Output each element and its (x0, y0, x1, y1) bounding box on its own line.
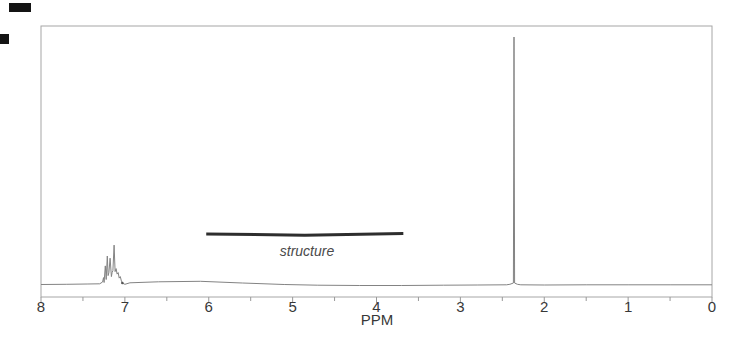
structure-label: structure (227, 244, 387, 258)
x-axis-tick-label: 1 (624, 299, 632, 314)
x-axis-tick-label: 2 (540, 299, 548, 314)
x-axis-tick-label: 3 (456, 299, 464, 314)
x-axis-tick-label: 7 (121, 299, 129, 314)
nmr-spectrum-plot (0, 0, 745, 341)
x-axis-title: PPM (341, 312, 413, 327)
x-axis-tick-label: 5 (288, 299, 296, 314)
structure-redaction-bar (206, 234, 403, 236)
x-axis-tick-label: 6 (205, 299, 213, 314)
baseline-dot-artifact (121, 282, 124, 285)
x-axis-tick-label: 8 (37, 299, 45, 314)
x-axis-tick-label: 0 (708, 299, 716, 314)
nmr-spectrum-page: 876543210 PPM structure (0, 0, 745, 341)
